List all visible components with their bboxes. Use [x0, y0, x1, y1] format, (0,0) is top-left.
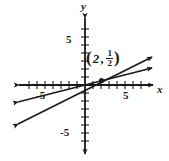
coordinate-graph-figure: y x -5 5 5 -5 ( 2 , 1 2 ): [0, 0, 169, 161]
x-axis-label: x: [157, 84, 163, 95]
y-tick-label-negative-5: -5: [60, 127, 69, 138]
y-tick-label-positive-5: 5: [66, 34, 72, 45]
marked-point-2-half: [99, 78, 104, 83]
plot-canvas: [0, 0, 169, 161]
fraction-denominator: 2: [106, 59, 113, 68]
x-tick-label-positive-5: 5: [123, 90, 129, 101]
y-axis-label: y: [81, 1, 86, 12]
fraction-numerator: 1: [106, 49, 113, 58]
annotation-fraction: 1 2: [105, 49, 114, 68]
point-coordinate-annotation: ( 2 , 1 2 ): [86, 49, 120, 68]
x-tick-label-negative-5: -5: [36, 90, 45, 101]
annotation-x-value: 2: [92, 52, 101, 65]
annotation-close-paren: ): [114, 51, 120, 65]
